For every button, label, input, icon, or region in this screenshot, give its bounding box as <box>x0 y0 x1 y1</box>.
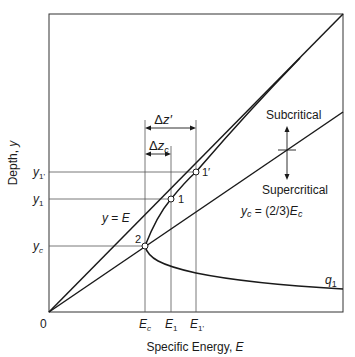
yc-tick-label: yc <box>32 239 43 255</box>
E1-tick-label: E1 <box>165 317 178 333</box>
point-2 <box>142 243 148 249</box>
point-1-prime <box>193 169 199 175</box>
subcritical-label: Subcritical <box>266 108 321 122</box>
E1-prime-tick-label: E1' <box>190 317 204 333</box>
point-1 <box>168 196 174 202</box>
curve-q1-supercritical <box>145 246 343 289</box>
y-equals-E-label: y = E <box>101 211 131 225</box>
origin-label: 0 <box>40 317 47 331</box>
dz-c-label: Δzc <box>149 138 169 155</box>
y-axis-title: Depth, y <box>6 140 20 186</box>
y1-prime-tick-label: y1' <box>32 165 45 181</box>
arrowhead-right-icon <box>190 126 196 131</box>
supercritical-label: Supercritical <box>262 183 328 197</box>
specific-energy-diagram: Δz′ Δzc Subcritical Supercritical y = E … <box>0 0 355 357</box>
y1-tick-label: y1 <box>32 192 44 208</box>
dz-prime-label: Δz′ <box>154 112 172 127</box>
critical-depth-label: yc = (2/3)Ec <box>240 204 303 219</box>
q1-label: q1 <box>325 273 337 289</box>
arrow-down-icon <box>285 174 290 180</box>
arrowhead-left-icon <box>145 126 151 131</box>
point-2-label: 2 <box>135 233 141 245</box>
arrow-up-icon <box>285 126 290 132</box>
point-1-label: 1 <box>178 193 184 205</box>
Ec-tick-label: Ec <box>139 317 151 333</box>
x-axis-title: Specific Energy, E <box>146 340 244 354</box>
point-1-prime-label: 1′ <box>202 166 210 178</box>
